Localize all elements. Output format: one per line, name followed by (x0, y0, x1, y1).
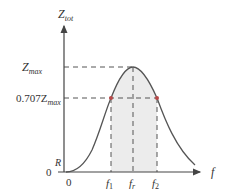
origin-label: 0 (66, 176, 72, 188)
tick-f2: f2 (152, 177, 159, 191)
tick-f1: f1 (106, 177, 113, 191)
y-origin-label: 0 (46, 166, 52, 178)
f2-marker (155, 96, 159, 100)
f1-marker (109, 96, 113, 100)
zmax-label: Zmax (22, 60, 42, 76)
y-axis-label: Ztot (58, 7, 74, 23)
x-axis-label: f (211, 165, 216, 179)
resonance-diagram: Ztot Zmax 0.707Zmax R 0 0 f1 fr f2 f (0, 0, 244, 196)
half-power-label: 0.707Zmax (16, 92, 61, 107)
r-label: R (54, 157, 61, 168)
tick-fr: fr (129, 177, 136, 191)
